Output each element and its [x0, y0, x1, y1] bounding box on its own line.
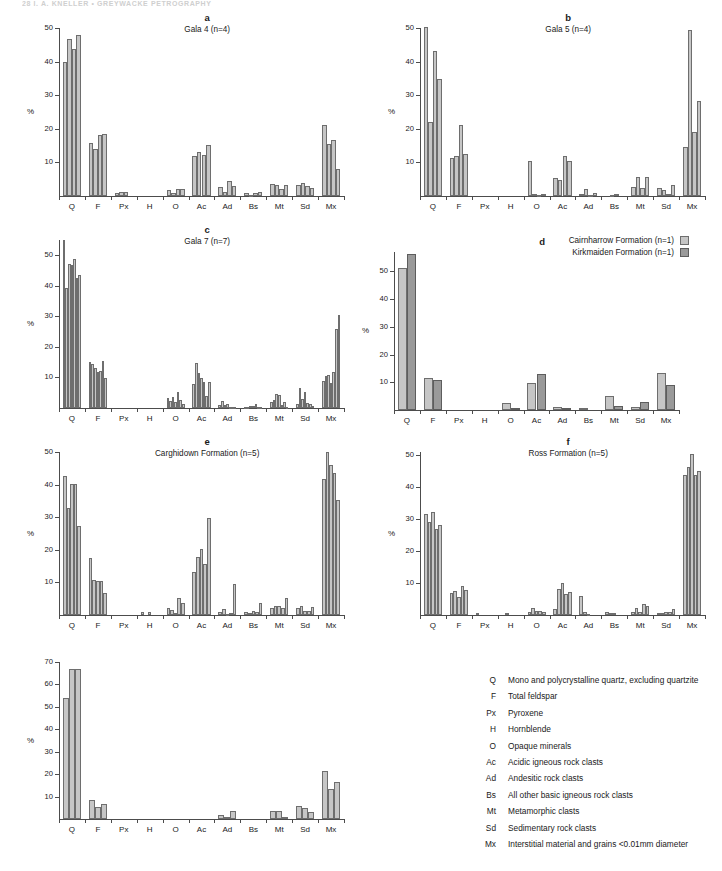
key-row: PxPyroxene: [470, 705, 698, 721]
bar: [255, 612, 259, 615]
key-row: AdAndesitic rock clasts: [470, 770, 698, 786]
y-tick-f-10: [416, 583, 420, 584]
bar: [77, 526, 81, 615]
key-row: BsAll other basic igneous rock clasts: [470, 787, 698, 803]
y-axis-line-b: [420, 28, 421, 196]
key-abbreviation: Sd: [470, 820, 496, 836]
bar: [666, 194, 671, 196]
legend-item: Kirkmaiden Formation (n=1): [414, 248, 689, 260]
key-description: Opaque minerals: [508, 738, 571, 754]
panel-letter-e: e: [167, 436, 247, 447]
x-tick-d-Bs: [575, 410, 576, 414]
bar: [553, 609, 557, 615]
y-tick-d-10: [390, 382, 394, 383]
x-tick-e-Ad: [214, 615, 215, 619]
bar: [208, 382, 211, 408]
bar: [584, 189, 589, 196]
bar: [310, 188, 315, 196]
x-tick-label-g-Px: Px: [111, 825, 137, 834]
x-tick-label-a-H: H: [137, 202, 163, 211]
key-abbreviation: Mt: [470, 803, 496, 819]
bar: [89, 362, 92, 408]
bar: [252, 406, 255, 408]
bar: [72, 49, 77, 196]
bar: [398, 268, 407, 410]
x-tick-label-d-H: H: [472, 416, 498, 425]
x-tick-c-Sd: [292, 408, 293, 412]
bar: [274, 606, 278, 615]
x-tick-label-c-Sd: Sd: [292, 414, 318, 423]
y-axis-label-c: %: [27, 319, 34, 328]
x-tick-f-H: [498, 615, 499, 619]
bar: [332, 372, 335, 408]
x-tick-f-Mt: [627, 615, 628, 619]
key-row: MtMetamorphic clasts: [470, 803, 698, 819]
bar: [206, 145, 211, 196]
bar: [322, 381, 325, 408]
bar: [561, 583, 565, 615]
x-tick-a-Sd: [292, 196, 293, 200]
bar: [231, 407, 234, 409]
x-tick-label-c-Ad: Ad: [214, 414, 240, 423]
bar: [286, 407, 289, 409]
x-tick-label-b-Q: Q: [420, 202, 446, 211]
bar: [182, 404, 185, 408]
legend-swatch-light: [680, 236, 689, 245]
x-tick-a-F: [85, 196, 86, 200]
x-tick-f-Bs: [601, 615, 602, 619]
bar: [174, 402, 177, 408]
bar: [568, 592, 572, 615]
x-tick-a-H: [137, 196, 138, 200]
x-tick-d-Ad: [549, 410, 550, 414]
bar: [76, 35, 81, 196]
x-tick-c-Bs: [240, 408, 241, 412]
x-tick-e-O: [163, 615, 164, 619]
panel-title-b: Gala 5 (n=4): [458, 25, 678, 34]
bar: [557, 589, 561, 615]
bar: [296, 608, 300, 615]
bar: [197, 152, 202, 196]
x-tick-a-Q: [59, 196, 60, 200]
bar: [657, 613, 661, 615]
y-tick-f-50: [416, 455, 420, 456]
x-tick-label-d-Ac: Ac: [524, 416, 550, 425]
bar: [275, 394, 278, 408]
bar: [89, 800, 95, 819]
bar: [100, 581, 104, 615]
bar: [257, 407, 260, 409]
x-axis-line-d: [394, 410, 679, 411]
bar: [278, 395, 281, 408]
panel-title-f: Ross Formation (n=5): [458, 449, 678, 458]
x-tick-label-g-Bs: Bs: [240, 825, 266, 834]
x-tick-label-a-Ac: Ac: [189, 202, 215, 211]
y-tick-g-70: [55, 662, 59, 663]
x-tick-label-c-Bs: Bs: [240, 414, 266, 423]
y-tick-label-g-40: 40: [29, 724, 53, 733]
legend-item: Cairnharrow Formation (n=1): [414, 236, 689, 248]
x-tick-a-Mt: [266, 196, 267, 200]
key-description: Metamorphic clasts: [508, 803, 579, 819]
y-tick-label-g-60: 60: [29, 679, 53, 688]
bar: [583, 612, 587, 615]
bar: [558, 180, 563, 196]
bar: [279, 189, 284, 196]
x-tick-d-Px: [446, 410, 447, 414]
x-tick-label-a-Bs: Bs: [240, 202, 266, 211]
x-tick-label-e-H: H: [137, 621, 163, 630]
x-tick-label-g-Mx: Mx: [318, 825, 344, 834]
x-tick-label-f-H: H: [498, 621, 524, 630]
x-tick-label-f-Mt: Mt: [627, 621, 653, 630]
bar: [97, 372, 100, 408]
x-tick-label-b-Mt: Mt: [627, 202, 653, 211]
x-tick-g-Mx: [318, 819, 319, 823]
bar: [553, 178, 558, 196]
x-tick-f-Ac: [550, 615, 551, 619]
bar: [614, 194, 619, 196]
x-tick-c-Ad: [214, 408, 215, 412]
key-abbreviation: Mx: [470, 836, 496, 852]
x-tick-d-Sd: [627, 410, 628, 414]
bar: [95, 807, 101, 819]
x-tick-label-f-O: O: [524, 621, 550, 630]
bar: [148, 612, 152, 615]
bar: [671, 185, 676, 196]
